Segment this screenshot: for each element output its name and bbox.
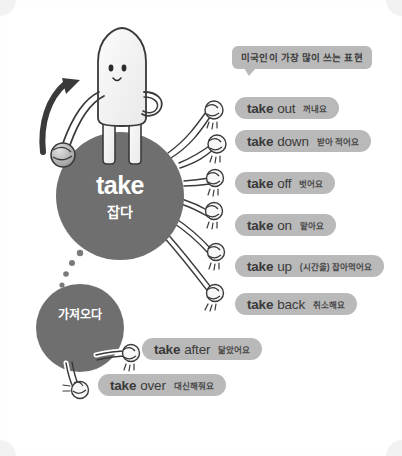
phrase-pill-take-after[interactable]: take after 닮았어요 [142,338,262,360]
dotted-trail [59,250,83,288]
phrase-verb: take [247,101,273,116]
phrase-particle: off [277,176,291,191]
hand-icon-take-off [207,170,224,197]
character-eye-left [109,65,114,72]
phrase-pill-take-over[interactable]: take over 대신해줘요 [98,374,226,396]
phrase-pill-take-off[interactable]: take off 벗어요 [235,172,335,194]
phrase-particle: after [184,342,210,357]
character-eye-right [122,65,127,72]
phrase-pill-take-back[interactable]: take back 취소해요 [235,293,357,315]
phrase-verb: take [247,176,273,191]
sub-node-circle [36,284,124,372]
phrase-verb: take [247,297,273,312]
hand-icon-take-down [208,135,226,163]
phrase-particle: up [277,259,292,274]
phrase-meaning: 받아 적어요 [317,135,359,147]
phrase-particle: on [277,218,292,233]
phrase-verb: take [110,378,136,393]
phrase-particle: out [277,101,295,116]
phrase-verb: take [154,342,180,357]
phrase-meaning: 대신해줘요 [174,379,214,391]
hand-icon-take-after [123,345,140,372]
phrase-particle: down [277,134,308,149]
illustration-page: 미국인이 가장 많이 쓰는 표현 take 잡다 가져오다 take out 꺼… [0,0,402,456]
hand-icon-take-out [205,101,223,129]
phrase-pill-take-on[interactable]: take on 맡아요 [235,214,336,236]
phrase-meaning: 맡아요 [300,219,324,231]
phrase-verb: take [247,134,273,149]
phrase-meaning: 취소해요 [313,298,345,310]
phrase-meaning: (시간을) 잡아먹어요 [300,260,372,272]
hand-icon-take-up [208,244,225,271]
phrase-pill-take-up[interactable]: take up (시간을) 잡아먹어요 [235,255,384,277]
phrase-pill-take-down[interactable]: take down 받아 적어요 [235,130,371,152]
phrase-pill-take-out[interactable]: take out 꺼내요 [235,97,339,119]
ball-icon [51,143,75,167]
curved-arrow-icon [42,78,80,152]
phrase-verb: take [247,259,273,274]
phrase-meaning: 벗어요 [299,177,323,189]
phrase-particle: back [277,297,305,312]
speech-bubble: 미국인이 가장 많이 쓰는 표현 [232,46,372,69]
hand-icon-take-back [205,285,224,312]
hand-icon-take-on [206,203,223,230]
phrase-meaning: 닮았어요 [218,343,250,355]
character-body [98,28,146,126]
hand-icon-take-over [63,382,89,399]
phrase-particle: over [140,378,165,393]
phrase-meaning: 꺼내요 [303,102,327,114]
phrase-verb: take [247,218,273,233]
